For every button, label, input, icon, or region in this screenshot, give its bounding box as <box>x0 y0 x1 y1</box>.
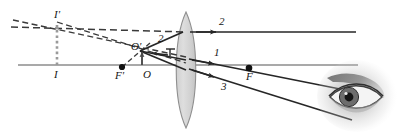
label-ray-3: 3 <box>221 81 227 92</box>
label-ray-2-incident: 2 <box>158 33 164 44</box>
label-image-base: I <box>54 69 58 80</box>
ray-diagram-canvas <box>0 0 399 136</box>
label-object-tip: O' <box>131 41 141 52</box>
optics-figure: I' I O' O F' F 1 2 2 3 <box>0 0 399 136</box>
observer-eye <box>317 60 397 132</box>
label-focal-right: F <box>246 71 253 82</box>
label-image-tip: I' <box>54 9 60 20</box>
label-ray-1: 1 <box>214 47 220 58</box>
label-object-base: O <box>143 69 151 80</box>
label-ray-2: 2 <box>219 16 225 27</box>
label-focal-left: F' <box>115 70 124 81</box>
